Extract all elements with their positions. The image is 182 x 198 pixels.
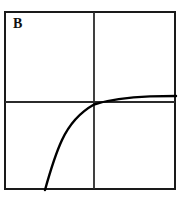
- figure-panel-b: B: [0, 0, 182, 198]
- plot-canvas: [0, 0, 182, 198]
- data-curve: [45, 96, 176, 190]
- panel-label: B: [13, 17, 22, 31]
